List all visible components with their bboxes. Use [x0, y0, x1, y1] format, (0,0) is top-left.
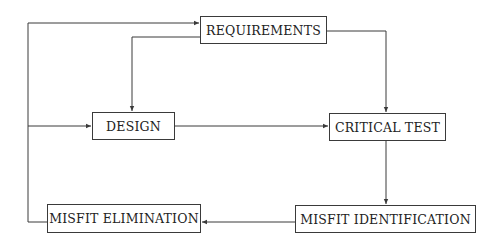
node-requirements: REQUIREMENTS: [200, 16, 327, 44]
node-misfit-elimination: MISFIT ELIMINATION: [47, 204, 201, 233]
node-critical-test: CRITICAL TEST: [329, 113, 446, 141]
node-label: DESIGN: [106, 119, 161, 134]
node-label: CRITICAL TEST: [335, 120, 440, 135]
node-misfit-identification: MISFIT IDENTIFICATION: [295, 205, 476, 233]
edge-requirements-to-critical-test: [327, 31, 386, 112]
node-label: REQUIREMENTS: [206, 23, 321, 38]
node-design: DESIGN: [92, 112, 175, 140]
node-label: MISFIT IDENTIFICATION: [300, 212, 471, 227]
node-label: MISFIT ELIMINATION: [49, 211, 199, 226]
flowchart-canvas: REQUIREMENTS DESIGN CRITICAL TEST MISFIT…: [0, 0, 500, 247]
edge-requirements-to-design: [132, 37, 200, 111]
